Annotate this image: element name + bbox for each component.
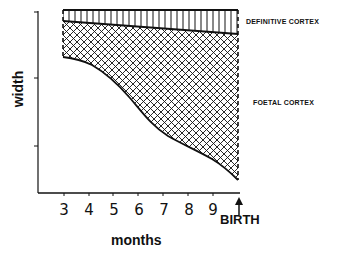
y-axis (34, 11, 38, 193)
x-tick-4: 4 (84, 201, 94, 219)
x-tick-8: 8 (184, 201, 194, 219)
chart-canvas (0, 0, 338, 257)
x-axis (38, 193, 240, 196)
x-tick-9: 9 (208, 201, 218, 219)
x-tick-7: 7 (159, 201, 169, 219)
x-tick-3: 3 (59, 201, 69, 219)
foetal-cortex-label: FOETAL CORTEX (253, 99, 314, 106)
x-tick-5: 5 (109, 201, 119, 219)
x-axis-label: months (111, 232, 162, 248)
birth-label: BIRTH (220, 212, 260, 227)
definitive-cortex-label: DEFINITIVE CORTEX (246, 18, 319, 25)
foetal-cortex-region (63, 21, 238, 180)
y-axis-label: width (10, 69, 26, 109)
x-tick-6: 6 (134, 201, 144, 219)
